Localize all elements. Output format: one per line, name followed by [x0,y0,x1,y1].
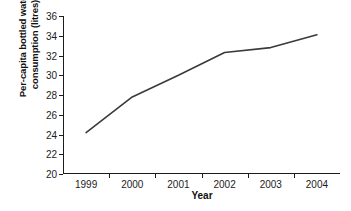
x-tick-label: 2003 [260,179,282,190]
y-tick-label: 30 [46,70,57,81]
data-line-bottled-water [86,35,317,133]
y-tick-label: 20 [46,169,57,180]
y-tick-label: 24 [46,129,57,140]
y-tick-label: 36 [46,11,57,22]
x-tick [294,174,295,178]
y-axis-title-line1: Per-capita bottled water [17,0,29,131]
y-tick-label: 26 [46,109,57,120]
y-tick-label: 28 [46,90,57,101]
chart-figure: Per-capita bottled water consumption (li… [0,0,351,211]
x-tick [155,174,156,178]
x-tick-label: 2004 [306,179,328,190]
y-axis-title: Per-capita bottled water consumption (li… [17,0,40,131]
x-tick-label: 1999 [75,179,97,190]
y-tick-label: 22 [46,149,57,160]
x-tick [248,174,249,178]
x-tick-label: 2002 [213,179,235,190]
x-tick [109,174,110,178]
x-tick [202,174,203,178]
x-axis-title: Year [63,190,341,201]
y-tick-label: 34 [46,30,57,41]
x-tick-label: 2001 [167,179,189,190]
y-axis-title-line2: consumption (litres) [28,0,40,131]
series-layer [63,16,340,174]
y-tick-label: 32 [46,50,57,61]
plot-area: 202224262830323436 199920002001200220032… [63,16,340,174]
y-tick [59,174,63,175]
x-tick-label: 2000 [121,179,143,190]
